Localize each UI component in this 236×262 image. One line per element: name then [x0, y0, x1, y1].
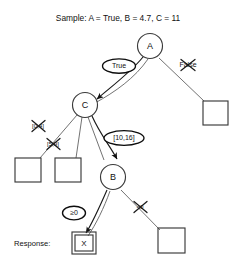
sample-title: Sample: A = True, B = 4.7, C = 11 — [56, 13, 181, 23]
edge-label-c-branch3: [10,16] — [113, 134, 134, 142]
leaf-box-c-branch1[interactable] — [15, 158, 41, 182]
edge-b-to-response-guide — [88, 191, 110, 236]
edge-label-b-ge0: ≥0 — [70, 209, 78, 216]
response-value: X — [81, 239, 87, 248]
node-b-label: B — [110, 172, 116, 182]
edge-c-to-leaf2 — [76, 117, 82, 158]
decision-tree-diagram: Sample: A = True, B = 4.7, C = 11 A C B … — [0, 0, 236, 262]
node-c-label: C — [82, 100, 89, 110]
response-label: Response: — [14, 239, 50, 248]
diagram-canvas: Sample: A = True, B = 4.7, C = 11 A C B … — [0, 0, 236, 262]
node-a-label: A — [147, 41, 153, 51]
edge-b-to-response — [86, 190, 107, 233]
leaf-box-b-lt0[interactable] — [158, 228, 185, 253]
edge-label-true: True — [112, 62, 126, 69]
edge-b-to-lt0-leaf — [121, 190, 160, 230]
leaf-box-a-false[interactable] — [203, 101, 228, 125]
edge-c-to-leaf1 — [40, 115, 77, 158]
leaf-box-c-branch2[interactable] — [55, 158, 81, 182]
